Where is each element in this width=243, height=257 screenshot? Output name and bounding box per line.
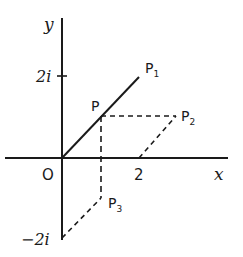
x-axis-label: x: [214, 164, 224, 184]
y-tick-label-2i: 2i: [35, 67, 51, 86]
complex-plane-diagram: y x O 2 2i −2i P P1 P2 P3: [0, 0, 243, 257]
point-label-p3: P3: [108, 195, 122, 214]
p1-main: P: [145, 60, 153, 76]
dashed-neg2i-p3: [62, 198, 101, 238]
p3-main: P: [108, 195, 116, 211]
x-tick-label-2: 2: [134, 166, 144, 184]
point-label-p1: P1: [145, 60, 159, 79]
y-axis-label: y: [43, 14, 54, 34]
dashed-2-p2: [139, 116, 176, 158]
point-label-p: P: [91, 98, 99, 114]
y-tick-label-neg2i: −2i: [21, 230, 50, 249]
p2-sub: 2: [189, 117, 195, 127]
p2-main: P: [181, 108, 189, 124]
p1-sub: 1: [153, 69, 159, 79]
p3-sub: 3: [116, 204, 122, 214]
origin-label: O: [42, 166, 54, 184]
point-label-p2: P2: [181, 108, 195, 127]
